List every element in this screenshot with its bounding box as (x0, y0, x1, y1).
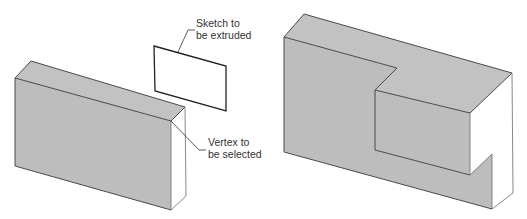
sketch-leader-line (178, 30, 195, 52)
sketch-label-line1: Sketch to (196, 17, 240, 29)
vertex-label-line2: be selected (208, 148, 262, 160)
diagram-canvas: Sketch to be extruded Vertex to be selec… (0, 0, 527, 219)
sketch-label-line2: be extruded (196, 29, 252, 41)
right-block (284, 14, 513, 209)
vertex-label-line1: Vertex to (208, 136, 250, 148)
left-block-side-face (171, 107, 186, 210)
